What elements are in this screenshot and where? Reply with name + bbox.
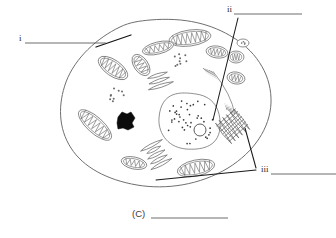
vesicle-membrane bbox=[237, 39, 249, 47]
chromatin-dot bbox=[186, 143, 188, 145]
chromatin-dot bbox=[187, 125, 189, 127]
chromatin-dot bbox=[172, 105, 174, 107]
label-iii: iii bbox=[261, 164, 269, 174]
vesicle-granule bbox=[243, 41, 245, 43]
ribosome bbox=[175, 65, 177, 67]
ribosome bbox=[178, 53, 180, 55]
ribosome bbox=[109, 98, 111, 100]
ribosome bbox=[110, 94, 112, 96]
ribosome bbox=[185, 60, 187, 62]
label-ii: ii bbox=[227, 4, 233, 14]
ribosome bbox=[123, 94, 125, 96]
chromatin-dot bbox=[176, 110, 178, 112]
chromatin-dot bbox=[186, 103, 188, 105]
chromatin-dot bbox=[190, 122, 192, 124]
ribosome bbox=[179, 57, 181, 59]
ribosome bbox=[113, 87, 115, 89]
chromatin-dot bbox=[192, 104, 194, 106]
caption-prefix: (C) bbox=[132, 208, 145, 219]
ribosome bbox=[112, 100, 114, 102]
chromatin-dot bbox=[174, 118, 176, 120]
chromatin-dot bbox=[200, 117, 202, 119]
cell-diagram: i ii iii (C) bbox=[0, 0, 336, 238]
chromatin-dot bbox=[181, 100, 183, 102]
chromatin-dot bbox=[184, 129, 186, 131]
nucleolus bbox=[194, 124, 206, 136]
chromatin-dot bbox=[171, 121, 173, 123]
chromatin-dot bbox=[189, 126, 191, 128]
ribosome bbox=[179, 60, 181, 62]
ribosome bbox=[113, 98, 115, 100]
chromatin-dot bbox=[208, 134, 210, 136]
vesicle-granule bbox=[241, 42, 243, 44]
mitochondrion bbox=[228, 51, 244, 63]
chromatin-dot bbox=[182, 127, 184, 129]
chromatin-dot bbox=[183, 119, 185, 121]
worksheet-page: i ii iii (C) bbox=[0, 0, 336, 238]
chromatin-dot bbox=[174, 112, 176, 114]
nuclear-envelope bbox=[159, 93, 220, 149]
chromatin-dot bbox=[209, 132, 211, 134]
chromatin-dot bbox=[168, 129, 170, 131]
chromatin-dot bbox=[205, 136, 207, 138]
ribosome bbox=[184, 54, 186, 56]
dense-granule bbox=[117, 112, 135, 130]
chromatin-dot bbox=[187, 109, 189, 111]
ribosome bbox=[176, 64, 178, 66]
chromatin-dot bbox=[203, 121, 205, 123]
chromatin-dot bbox=[189, 143, 191, 145]
chromatin-dot bbox=[178, 114, 180, 116]
chromatin-dot bbox=[209, 127, 211, 129]
chromatin-dot bbox=[195, 138, 197, 140]
chromatin-dot bbox=[197, 100, 199, 102]
ribosome bbox=[121, 90, 123, 92]
chromatin-dot bbox=[197, 115, 199, 117]
vesicle-granule bbox=[244, 43, 246, 45]
label-i: i bbox=[19, 33, 22, 43]
ribosome bbox=[174, 55, 176, 57]
chromatin-dot bbox=[190, 105, 192, 107]
chromatin-dot bbox=[196, 117, 198, 119]
chromatin-dot bbox=[206, 137, 208, 139]
nucleus bbox=[159, 93, 220, 149]
chromatin-dot bbox=[178, 121, 180, 123]
vesicle bbox=[237, 39, 249, 47]
chromatin-dot bbox=[171, 119, 173, 121]
ribosome bbox=[179, 63, 181, 65]
chromatin-dot bbox=[189, 114, 191, 116]
chromatin-dot bbox=[185, 122, 187, 124]
chromatin-dot bbox=[180, 106, 182, 108]
chromatin-dot bbox=[176, 113, 178, 115]
chromatin-dot bbox=[204, 104, 206, 106]
ribosome bbox=[118, 90, 120, 92]
chromatin-dot bbox=[179, 116, 181, 118]
chromatin-dot bbox=[169, 110, 171, 112]
